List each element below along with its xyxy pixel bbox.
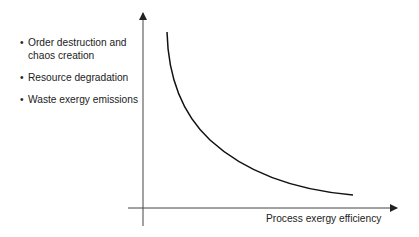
efficiency-impact-curve [167, 32, 353, 195]
diagram-canvas [0, 0, 419, 237]
x-axis-label: Process exergy efficiency [266, 213, 381, 224]
